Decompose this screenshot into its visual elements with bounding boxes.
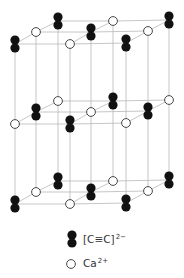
calcium-ion-top-0-1 — [109, 17, 118, 26]
lattice-edge — [91, 191, 148, 192]
carbon-atom — [10, 35, 19, 44]
calcium-ion-bottom-2-1 — [66, 200, 75, 209]
calcium-ion-bottom-1-0 — [32, 188, 41, 197]
carbon-atom — [10, 195, 19, 204]
calcium-ion-middle-2-0 — [11, 120, 20, 129]
carbon-atom — [53, 20, 62, 29]
legend-cation-circle-icon — [67, 260, 76, 269]
carbon-atom — [86, 31, 95, 40]
carbon-atom — [53, 172, 62, 181]
carbon-atom — [10, 43, 19, 52]
carbon-atom — [108, 92, 117, 101]
lattice-edge — [113, 100, 169, 101]
carbon-atom — [53, 180, 62, 189]
carbon-atom — [121, 42, 130, 51]
carbon-atom — [53, 12, 62, 21]
carbon-atom — [121, 194, 130, 203]
carbon-atom — [108, 100, 117, 109]
lattice-edge — [70, 123, 126, 124]
calcium-ion-top-2-1 — [66, 40, 75, 49]
calcium-ion-middle-1-1 — [87, 108, 96, 117]
carbon-atom — [10, 203, 19, 212]
carbon-atom — [65, 115, 74, 124]
calcium-ion-bottom-1-2 — [144, 187, 153, 196]
legend-anion-dumbbell-icon — [67, 230, 76, 247]
carbon-atom — [164, 171, 173, 180]
carbon-atom — [121, 34, 130, 43]
calcium-ion-middle-0-0 — [54, 97, 63, 106]
carbon-atom — [164, 11, 173, 20]
carbon-atom — [86, 23, 95, 32]
calcium-ion-middle-2-2 — [122, 119, 131, 128]
crystal-lattice-diagram — [0, 0, 184, 278]
carbon-atom — [31, 103, 40, 112]
carbon-atom — [65, 123, 74, 132]
calcium-ion-middle-0-2 — [165, 96, 174, 105]
lattice-edge — [91, 31, 148, 32]
carbon-atom — [164, 179, 173, 188]
lattice-edge — [113, 20, 169, 21]
carbon-atom — [164, 19, 173, 28]
calcium-ion-bottom-0-1 — [109, 177, 118, 186]
lattice-edge — [70, 203, 126, 204]
lattice-edge — [113, 180, 169, 181]
calcium-ion-top-1-2 — [144, 27, 153, 36]
lattice-atoms — [10, 11, 173, 212]
carbon-atom — [143, 102, 152, 111]
legend-symbols — [67, 230, 77, 268]
lattice-edge — [70, 43, 126, 44]
carbon-atom — [121, 202, 130, 211]
carbon-atom — [31, 111, 40, 120]
calcium-ion-top-1-0 — [32, 28, 41, 37]
carbon-atom — [86, 191, 95, 200]
lattice-edge — [91, 111, 148, 112]
carbon-atom — [143, 110, 152, 119]
carbon-atom — [86, 183, 95, 192]
